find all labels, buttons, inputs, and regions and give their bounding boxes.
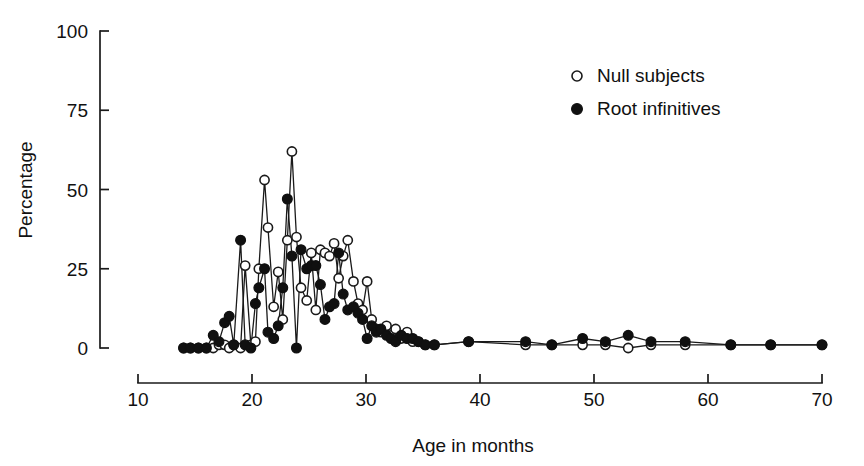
filled-circle-marker xyxy=(601,337,611,347)
filled-circle-marker xyxy=(547,340,557,350)
y-axis-tick-label: 75 xyxy=(67,100,88,121)
filled-circle-marker xyxy=(334,248,344,258)
x-axis-tick-label: 30 xyxy=(355,389,376,410)
x-axis-title: Age in months xyxy=(412,435,533,456)
filled-circle-marker xyxy=(202,343,212,353)
filled-circle-marker xyxy=(254,283,264,293)
y-axis-title: Percentage xyxy=(15,141,36,238)
filled-circle-marker xyxy=(311,261,321,271)
legend-filled-circle-icon xyxy=(572,104,583,115)
x-axis-tick-label: 60 xyxy=(697,389,718,410)
open-circle-marker xyxy=(334,274,343,283)
filled-circle-marker xyxy=(260,264,270,274)
data-series-layer xyxy=(179,147,827,353)
x-axis-tick-label: 50 xyxy=(583,389,604,410)
y-axis-tick-label: 50 xyxy=(67,180,88,201)
legend-open-circle-icon xyxy=(572,71,582,81)
filled-circle-marker xyxy=(726,340,736,350)
open-circle-marker xyxy=(343,236,352,245)
filled-circle-marker xyxy=(521,337,531,347)
y-axis: 0255075100 xyxy=(56,21,109,359)
open-circle-marker xyxy=(307,248,316,257)
open-circle-marker xyxy=(287,147,296,156)
filled-circle-marker xyxy=(292,343,302,353)
filled-circle-marker xyxy=(287,251,297,261)
open-circle-marker xyxy=(311,305,320,314)
open-circle-marker xyxy=(241,261,250,270)
open-circle-marker xyxy=(274,267,283,276)
filled-circle-marker xyxy=(362,334,372,344)
y-axis-tick-label: 100 xyxy=(56,21,88,42)
filled-circle-marker xyxy=(430,340,440,350)
filled-circle-marker xyxy=(269,334,279,344)
filled-circle-marker xyxy=(817,340,827,350)
open-circle-marker xyxy=(349,277,358,286)
open-circle-marker xyxy=(329,239,338,248)
filled-circle-marker xyxy=(766,340,776,350)
filled-circle-marker xyxy=(358,315,368,325)
filled-circle-marker xyxy=(464,337,474,347)
filled-circle-marker xyxy=(282,194,292,204)
open-circle-marker xyxy=(363,277,372,286)
filled-circle-marker xyxy=(296,245,306,255)
filled-circle-marker xyxy=(214,337,224,347)
x-axis-tick-label: 40 xyxy=(469,389,490,410)
filled-circle-marker xyxy=(316,280,326,290)
filled-circle-marker xyxy=(338,289,348,299)
filled-circle-marker xyxy=(623,330,633,340)
filled-circle-marker xyxy=(329,299,339,309)
filled-circle-marker xyxy=(578,334,588,344)
x-axis: 10203040506070 xyxy=(127,374,832,410)
y-axis-tick-label: 0 xyxy=(77,338,88,359)
open-circle-marker xyxy=(269,302,278,311)
filled-circle-marker xyxy=(251,299,261,309)
chart-figure: 0255075100 10203040506070 Null subjectsR… xyxy=(0,0,864,466)
filled-circle-marker xyxy=(320,315,330,325)
open-circle-marker xyxy=(325,251,334,260)
open-circle-marker xyxy=(296,283,305,292)
filled-circle-marker xyxy=(236,235,246,245)
x-axis-tick-label: 70 xyxy=(811,389,832,410)
open-circle-marker xyxy=(263,223,272,232)
filled-circle-marker xyxy=(273,321,283,331)
filled-circle-marker xyxy=(278,283,288,293)
filled-circle-marker xyxy=(420,340,430,350)
legend-item-label: Root infinitives xyxy=(597,98,721,119)
filled-circle-marker xyxy=(646,337,656,347)
open-circle-marker xyxy=(302,296,311,305)
filled-circle-marker xyxy=(224,311,234,321)
open-circle-marker xyxy=(624,343,633,352)
chart-legend: Null subjectsRoot infinitives xyxy=(572,65,721,119)
y-axis-tick-label: 25 xyxy=(67,259,88,280)
chart-canvas: 0255075100 10203040506070 Null subjectsR… xyxy=(0,0,864,466)
filled-circle-marker xyxy=(229,340,239,350)
open-circle-marker xyxy=(292,232,301,241)
x-axis-tick-label: 10 xyxy=(127,389,148,410)
open-circle-marker xyxy=(260,175,269,184)
filled-circle-marker xyxy=(680,337,690,347)
x-axis-tick-label: 20 xyxy=(241,389,262,410)
legend-item-label: Null subjects xyxy=(597,65,705,86)
open-circle-marker xyxy=(283,236,292,245)
filled-circle-marker xyxy=(246,343,256,353)
